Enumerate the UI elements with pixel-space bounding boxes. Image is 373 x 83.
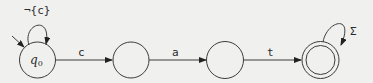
state-1	[113, 42, 149, 78]
self-loop-s3	[323, 24, 345, 45]
transition-label-a: a	[172, 46, 179, 59]
initial-arrow	[12, 36, 24, 47]
transition-label-not-c: ¬{c}	[24, 4, 51, 17]
transition-label-sigma: Σ	[350, 25, 357, 38]
automaton-diagram: ¬{c} q0 c a t Σ	[0, 0, 373, 83]
state-2	[207, 42, 244, 79]
state-label-q0: q0	[30, 53, 43, 68]
transition-label-c: c	[78, 46, 85, 59]
state-3-accepting-outer	[302, 42, 339, 79]
state-3-accepting-inner	[306, 46, 335, 75]
transition-label-t: t	[267, 46, 274, 59]
